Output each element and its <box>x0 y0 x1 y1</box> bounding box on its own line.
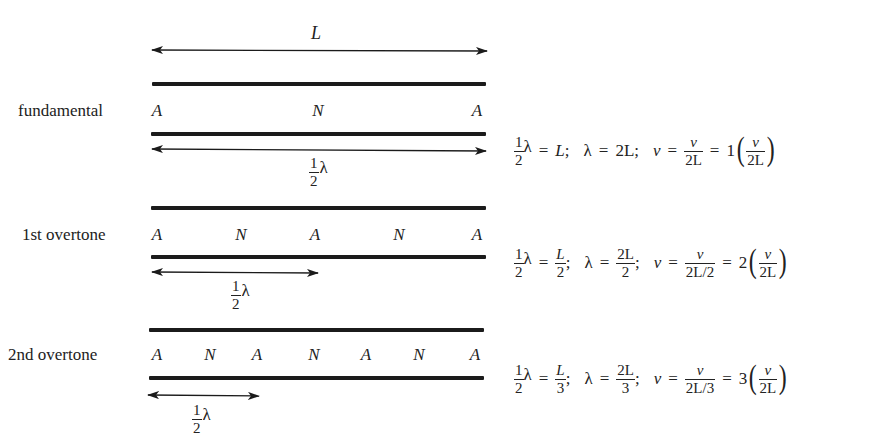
half-wavelength-arrow-1st-overtone <box>152 272 318 273</box>
antinode-label: A <box>152 225 162 245</box>
antinode-label: A <box>361 345 371 365</box>
pipe-wall-bottom <box>151 132 486 136</box>
half-wavelength-arrow-2nd-overtone <box>148 395 259 396</box>
equation-1st-overtone: 12 λ = L2; λ = 2L2; ν = v2L/2 = 2 (v2L) <box>514 238 789 288</box>
half-wavelength-arrow-fundamental <box>152 149 486 151</box>
length-label: L <box>311 23 321 44</box>
half-lambda-label: 12λ <box>192 403 211 436</box>
node-row-fundamental: A N A <box>0 101 500 123</box>
pipe-wall-top <box>149 328 484 332</box>
antinode-label: A <box>310 225 320 245</box>
half-lambda-label: 12λ <box>309 156 328 189</box>
antinode-label: A <box>152 345 162 365</box>
node-label: N <box>393 225 404 245</box>
pipe-wall-bottom <box>149 376 484 380</box>
antinode-label: A <box>252 345 262 365</box>
node-row-1st-overtone: A N A N A <box>0 225 500 247</box>
pipe-wall-bottom <box>151 255 486 259</box>
node-label: N <box>204 345 215 365</box>
node-label: N <box>312 101 323 121</box>
equation-2nd-overtone: 12 λ = L3; λ = 2L3; ν = v2L/3 = 3 (v2L) <box>514 354 789 404</box>
node-row-2nd-overtone: A N A N A N A <box>0 345 500 367</box>
antinode-label: A <box>472 225 482 245</box>
antinode-label: A <box>152 101 162 121</box>
antinode-label: A <box>472 101 482 121</box>
node-label: N <box>308 345 319 365</box>
half-lambda-label: 12λ <box>231 279 250 312</box>
node-label: N <box>235 225 246 245</box>
equation-fundamental: 12 λ = L; λ = 2L; ν = v2L = 1 (v2L) <box>514 126 776 176</box>
pipe-wall-top <box>151 206 486 210</box>
pipe-wall-top <box>152 82 486 86</box>
node-label: N <box>413 345 424 365</box>
antinode-label: A <box>470 345 480 365</box>
